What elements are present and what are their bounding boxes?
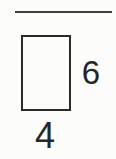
top-horizontal-rule bbox=[15, 11, 112, 13]
figure-canvas: 6 4 bbox=[0, 0, 116, 159]
rectangle-shape bbox=[21, 35, 71, 111]
width-dimension-label: 4 bbox=[29, 119, 61, 153]
height-dimension-label: 6 bbox=[79, 56, 103, 88]
